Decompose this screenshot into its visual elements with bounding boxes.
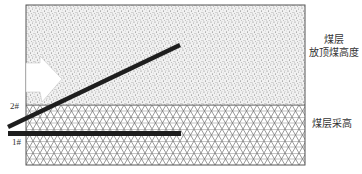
seam-1-horizontal xyxy=(8,131,181,136)
upper-zone-label-line1: 煤层 xyxy=(306,33,362,46)
upper-coal-zone xyxy=(26,5,305,105)
seam-1-label: 1# xyxy=(12,137,21,147)
lower-zone-label: 煤层采高 xyxy=(312,117,352,130)
seam-2-label: 2# xyxy=(10,101,19,111)
upper-zone-label: 煤层 放顶煤高度 xyxy=(306,33,362,59)
upper-zone-label-line2: 放顶煤高度 xyxy=(306,46,362,59)
coal-seam-diagram xyxy=(0,0,362,174)
